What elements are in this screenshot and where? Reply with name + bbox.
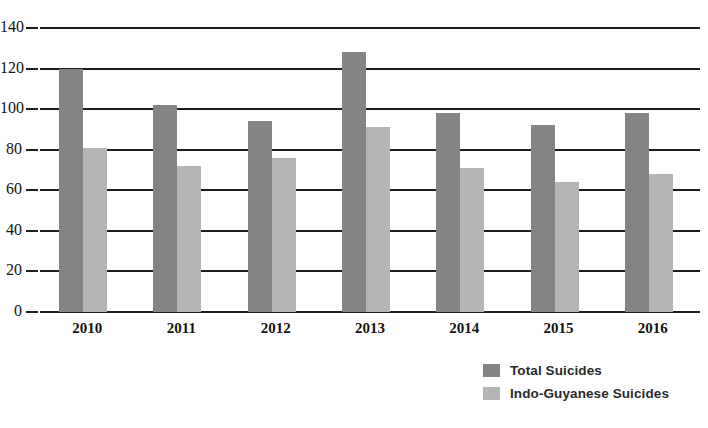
y-axis-tick-mark	[26, 311, 38, 313]
bar-2011-total-suicides	[153, 105, 177, 312]
x-axis-label-2016: 2016	[606, 320, 700, 337]
chart-legend: Total SuicidesIndo-Guyanese Suicides	[483, 360, 669, 406]
x-axis-label-2014: 2014	[417, 320, 511, 337]
bar-2010-indo-guyanese-suicides	[83, 148, 107, 312]
y-axis-tick-label: 20	[0, 262, 22, 278]
y-axis-tick-label: 100	[0, 100, 22, 116]
y-axis-tick-label: 140	[0, 19, 22, 35]
y-axis-tick-label: 120	[0, 60, 22, 76]
bar-chart-figure: 020406080100120140 201020112012201320142…	[0, 0, 708, 428]
y-axis-tick-mark	[26, 270, 38, 272]
y-axis-tick-label: 0	[0, 303, 22, 319]
legend-label: Indo-Guyanese Suicides	[510, 386, 669, 401]
y-axis-tick-label: 80	[0, 141, 22, 157]
legend-item-indo-guyanese-suicides: Indo-Guyanese Suicides	[483, 383, 669, 404]
legend-item-total-suicides: Total Suicides	[483, 360, 669, 381]
bar-2015-indo-guyanese-suicides	[555, 182, 579, 312]
y-axis-tick-label: 60	[0, 181, 22, 197]
x-axis-label-2012: 2012	[229, 320, 323, 337]
bar-2010-total-suicides	[59, 69, 83, 312]
bar-2013-indo-guyanese-suicides	[366, 127, 390, 312]
bar-2011-indo-guyanese-suicides	[177, 166, 201, 312]
y-axis-tick-mark	[26, 68, 38, 70]
bar-2016-indo-guyanese-suicides	[649, 174, 673, 312]
bar-2012-indo-guyanese-suicides	[272, 158, 296, 312]
y-axis-tick-mark	[26, 230, 38, 232]
bar-2014-total-suicides	[436, 113, 460, 312]
y-axis-tick-mark	[26, 27, 38, 29]
plot-area	[40, 28, 700, 312]
bar-2013-total-suicides	[342, 52, 366, 312]
total-suicides-swatch-icon	[483, 364, 500, 377]
y-axis-tick-label: 40	[0, 222, 22, 238]
x-axis-label-2015: 2015	[511, 320, 605, 337]
y-axis-tick-mark	[26, 149, 38, 151]
legend-label: Total Suicides	[510, 363, 602, 378]
bar-2015-total-suicides	[531, 125, 555, 312]
x-axis-label-2013: 2013	[323, 320, 417, 337]
y-axis-tick-mark	[26, 189, 38, 191]
y-axis-tick-mark	[26, 108, 38, 110]
bar-2016-total-suicides	[625, 113, 649, 312]
bar-2012-total-suicides	[248, 121, 272, 312]
x-axis-label-2011: 2011	[134, 320, 228, 337]
indo-guyanese-suicides-swatch-icon	[483, 387, 500, 400]
x-axis-label-2010: 2010	[40, 320, 134, 337]
bar-2014-indo-guyanese-suicides	[460, 168, 484, 312]
